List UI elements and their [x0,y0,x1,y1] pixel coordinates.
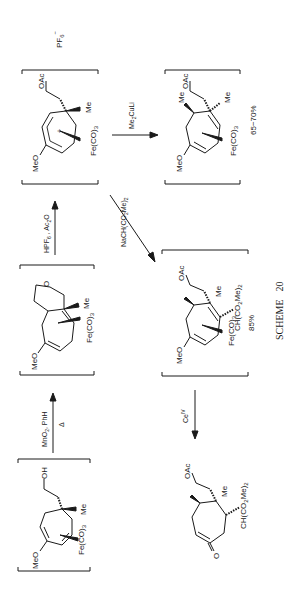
reagent-step4: NaCH(CO2Me)2 [120,197,129,247]
yield-malonate-adduct: 85% [247,315,256,331]
label-fe-4: Fe(CO)3 [229,125,239,156]
label-meo-4: MeO [175,155,184,172]
label-meo-1: MeO [31,552,40,569]
reagent-step1-top: MnO2, PhH [41,412,50,447]
label-me-3: Me [84,101,93,113]
label-fe-2: Fe(CO)3 [85,312,95,343]
label-meo-3: MeO [31,155,40,172]
label-me-4a: Me [177,91,186,103]
label-malonate-5: CH(CO2Me)2 [233,284,243,331]
reagent-step2: HPF6 , Ac2O [43,214,52,253]
label-oac-3: OAc [37,73,46,89]
yield-methyl-adduct: 65−70% [249,105,258,135]
counterion-pf6: PF6− [52,30,65,48]
label-oh-1: OH [40,467,49,479]
reagent-step3: Me2CuLi [128,102,137,129]
label-me-6: Me [220,485,229,497]
label-me-1: Me [79,503,88,515]
compound-enone-product [190,473,240,551]
label-fe-3: Fe(CO)3 [89,125,99,156]
reagent-step1-bottom: Δ [58,422,65,427]
arrow-step3 [112,132,158,138]
label-meo-5: MeO [175,347,184,364]
label-fe-1: Fe(CO)3 [77,524,87,555]
label-me-5: Me [214,285,223,297]
label-ketone-o: O [212,553,221,559]
label-ring-o-2: O [42,281,51,287]
reaction-scheme: MeO Fe(CO)3 OH Me MnO2, PhH Δ MeO O Me F… [0,0,293,593]
reagent-step5: CeIV [180,409,189,423]
label-charge-3: + [56,129,63,133]
label-meo-2: MeO [30,353,39,370]
label-me-4b: Me [223,91,232,103]
arrow-step2 [52,201,58,255]
arrow-step4 [110,195,155,262]
arrow-step1 [50,393,56,453]
label-me-2: Me [82,297,91,309]
scheme-canvas: MeO Fe(CO)3 OH Me MnO2, PhH Δ MeO O Me F… [0,0,293,593]
arrow-step5 [192,390,198,439]
label-malonate-6: CH(CO2Me)2 [239,482,249,529]
label-oac-6: OAc [183,463,192,479]
scheme-caption: SCHEME20 [274,281,285,340]
label-oac-5: OAc [177,265,186,281]
label-oac-4: OAc [181,73,190,89]
